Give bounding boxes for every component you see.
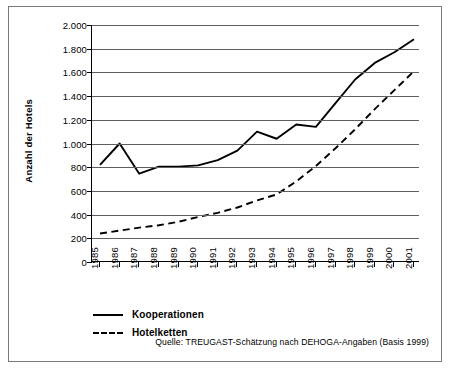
y-axis-tick-label: 1.600 [63, 67, 87, 78]
legend-swatch-solid-icon [93, 314, 123, 316]
x-axis-tick-label: 1990 [187, 247, 198, 269]
gridline [92, 191, 419, 192]
gridline [92, 215, 419, 216]
x-axis-tick-label: 1988 [147, 247, 158, 269]
x-axis-tick-label: 1994 [265, 247, 276, 269]
x-axis-tick-label: 1991 [206, 247, 217, 269]
x-axis-tick-label: 1985 [89, 247, 100, 269]
x-axis-tick-mark [236, 262, 237, 267]
y-axis-tick-label: 1.000 [63, 138, 87, 149]
y-axis-title: Anzahl der Hotels [23, 99, 34, 183]
x-axis-tick-label: 1995 [285, 247, 296, 269]
x-axis-tick-label: 1997 [324, 247, 335, 269]
y-axis-tick-label: 1.400 [63, 91, 87, 102]
y-axis-tick-label: 600 [71, 185, 87, 196]
legend-swatch-dashed-icon [93, 332, 123, 334]
source-note: Quelle: TREUGAST-Schätzung nach DEHOGA-A… [155, 337, 429, 347]
legend-label: Kooperationen [132, 309, 204, 320]
legend-item[interactable]: Kooperationen [93, 307, 323, 322]
gridline [92, 167, 419, 168]
x-axis-tick-label: 2000 [383, 247, 394, 269]
x-axis-tick-label: 1998 [344, 247, 355, 269]
gridline [92, 238, 419, 239]
x-axis-tick-label: 1986 [108, 247, 119, 269]
x-axis-tick-label: 1993 [246, 247, 257, 269]
gridline [92, 25, 419, 26]
x-axis-tick-label: 1996 [304, 247, 315, 269]
series-line-kooperationen [100, 39, 414, 174]
y-axis-tick-label: 400 [71, 209, 87, 220]
y-axis-tick-label: 800 [71, 162, 87, 173]
y-axis-tick-labels: 02004006008001.0001.2001.4001.6001.8002.… [35, 25, 87, 262]
gridline [92, 120, 419, 121]
x-axis-tick-label: 1992 [226, 247, 237, 269]
y-axis-tick-label: 1.800 [63, 43, 87, 54]
y-axis-tick-label: 200 [71, 233, 87, 244]
plot-area [91, 25, 419, 262]
y-axis-tick-label: 2.000 [63, 20, 87, 31]
x-axis-tick-label: 1999 [363, 247, 374, 269]
x-axis-tick-label: 2001 [403, 247, 414, 269]
x-axis-tick-labels: 1985198619871988198919901991199219931994… [91, 269, 419, 309]
gridline [92, 144, 419, 145]
gridline [92, 49, 419, 50]
x-axis-tick-label: 1987 [128, 247, 139, 269]
x-axis-tick-label: 1989 [167, 247, 178, 269]
gridline [92, 96, 419, 97]
chart-figure: Anzahl der Hotels 02004006008001.0001.20… [8, 6, 442, 362]
y-axis-tick-label: 1.200 [63, 114, 87, 125]
x-axis-tick-mark [393, 262, 394, 267]
gridline [92, 72, 419, 73]
